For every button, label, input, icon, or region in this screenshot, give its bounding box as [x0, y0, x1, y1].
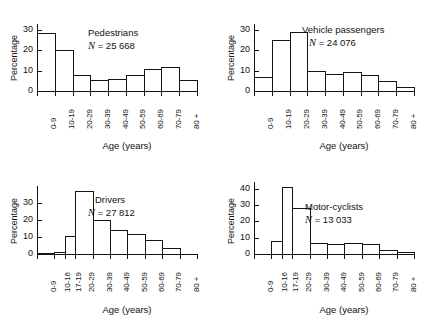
x-axis-tick — [254, 92, 255, 96]
x-axis-tick-label: 0-9 — [49, 118, 58, 129]
x-axis-tick-label: 17-19 — [74, 272, 83, 292]
x-axis-tick-label: 10-16 — [63, 272, 72, 292]
panel-sample-size: N = 27 812 — [88, 207, 135, 218]
x-axis-tick — [414, 92, 415, 96]
x-axis-tick-label: 10-19 — [284, 109, 293, 129]
x-axis-tick-label: 40-49 — [122, 272, 131, 292]
y-axis-tick — [255, 71, 259, 72]
x-axis-tick — [144, 92, 145, 96]
x-axis-tick — [127, 255, 128, 259]
histogram-bar — [37, 253, 55, 254]
panel-sample-size: N = 25 668 — [88, 40, 135, 51]
x-axis-title: Age (years) — [264, 140, 424, 151]
y-axis-tick — [255, 221, 259, 222]
x-axis-tick — [414, 255, 415, 259]
x-axis-tick — [396, 92, 397, 96]
panel-title: Vehicle passengers — [302, 24, 384, 35]
histogram-bar — [344, 243, 362, 254]
x-axis-tick — [90, 92, 91, 96]
x-axis-tick — [327, 255, 328, 259]
x-axis-tick-label: 50-59 — [355, 109, 364, 129]
x-axis-tick — [37, 92, 38, 96]
x-axis-tick-label: 50-59 — [138, 109, 147, 129]
x-axis-tick — [343, 92, 344, 96]
panel-title: Motor-cyclists — [305, 201, 363, 212]
histogram-bar — [290, 32, 309, 91]
x-axis-tick-label: 30-39 — [105, 272, 114, 292]
x-axis-tick-label: 80 + — [409, 277, 418, 292]
histogram-bar — [73, 75, 92, 91]
panel-sample-size: N = 24 076 — [309, 37, 356, 48]
x-axis-tick — [325, 92, 326, 96]
x-axis-tick — [145, 255, 146, 259]
histogram-bar — [145, 240, 163, 254]
x-axis-tick — [307, 92, 308, 96]
histogram-bar — [161, 67, 180, 91]
histogram-bar — [397, 252, 415, 254]
x-axis-tick — [310, 255, 311, 259]
x-axis-tick-label: 40-49 — [338, 109, 347, 129]
x-axis-tick — [180, 255, 181, 259]
y-axis-tick — [255, 30, 259, 31]
x-axis-tick — [54, 255, 55, 259]
y-axis-tick — [255, 189, 259, 190]
x-axis-title: Age (years) — [47, 304, 207, 315]
chart-panel-motor-cyclists: 010203040Percentage0-910-1617-1920-2930-… — [217, 164, 434, 327]
x-axis-tick-label: 20-29 — [85, 109, 94, 129]
x-axis-tick-label: 40-49 — [339, 272, 348, 292]
y-axis-title: Percentage — [9, 35, 19, 81]
y-axis-tick-label: 30 — [13, 25, 33, 34]
histogram-bar — [254, 77, 273, 91]
x-axis-tick — [197, 255, 198, 259]
x-axis-tick — [379, 255, 380, 259]
histogram-bar — [144, 69, 163, 91]
panel-sample-size: N = 13 033 — [305, 214, 352, 225]
x-axis-tick — [162, 255, 163, 259]
x-axis-tick-label: 20-29 — [304, 272, 313, 292]
chart-panel-vehicle-passengers: 0102030Percentage0-910-1920-2930-3940-49… — [217, 0, 434, 163]
y-axis-line — [254, 182, 255, 254]
x-axis-tick-label: 17-19 — [291, 272, 300, 292]
histogram-bar — [343, 72, 362, 91]
x-axis-line — [37, 254, 198, 255]
histogram-bar — [162, 248, 180, 254]
x-axis-tick — [292, 255, 293, 259]
histogram-bar — [378, 81, 397, 91]
chart-panel-drivers: 0102030Percentage0-910-1617-1920-2930-39… — [0, 164, 217, 327]
y-axis-title: Percentage — [226, 35, 236, 81]
x-axis-tick-label: 80 + — [192, 277, 201, 292]
x-axis-tick-label: 80 + — [409, 114, 418, 129]
x-axis-tick — [290, 92, 291, 96]
histogram-bar — [90, 80, 109, 91]
x-axis-tick — [126, 92, 127, 96]
x-axis-tick — [378, 92, 379, 96]
y-axis-tick-label: 0 — [13, 249, 33, 258]
x-axis-tick — [179, 92, 180, 96]
x-axis-tick — [110, 255, 111, 259]
x-axis-tick-label: 70-79 — [174, 272, 183, 292]
x-axis-tick — [161, 92, 162, 96]
x-axis-tick — [361, 92, 362, 96]
x-axis-tick-label: 70-79 — [391, 272, 400, 292]
histogram-bar — [325, 74, 344, 91]
x-axis-tick-label: 30-39 — [103, 109, 112, 129]
x-axis-tick-label: 20-29 — [302, 109, 311, 129]
x-axis-tick-label: 10-16 — [280, 272, 289, 292]
histogram-bar — [126, 75, 145, 91]
x-axis-tick-label: 0-9 — [266, 118, 275, 129]
chart-panel-pedestrians: 0102030Percentage0-910-1920-2930-3940-49… — [0, 0, 217, 163]
x-axis-tick — [93, 255, 94, 259]
x-axis-tick-label: 70-79 — [391, 109, 400, 129]
x-axis-tick — [37, 255, 38, 259]
x-axis-tick-label: 0-9 — [49, 281, 58, 292]
histogram-bar — [108, 79, 127, 91]
histogram-bar — [75, 191, 93, 254]
histogram-bar — [179, 80, 198, 91]
x-axis-tick-label: 60-69 — [374, 272, 383, 292]
x-axis-tick — [75, 255, 76, 259]
x-axis-title: Age (years) — [264, 304, 424, 315]
histogram-bar — [361, 75, 380, 91]
x-axis-tick-label: 20-29 — [87, 272, 96, 292]
x-axis-tick-label: 80 + — [192, 114, 201, 129]
histogram-bar — [272, 40, 291, 91]
